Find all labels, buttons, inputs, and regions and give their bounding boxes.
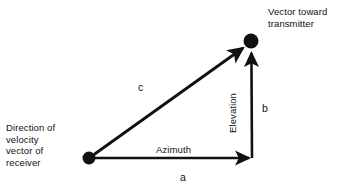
transmitter-label: Vector towardtransmitter <box>268 6 327 29</box>
line-of-sight-arrow <box>94 48 243 155</box>
receiver-label-line-4: receiver <box>6 157 41 168</box>
elevation-label: Elevation <box>227 93 239 133</box>
transmitter-vertex-dot <box>244 34 259 49</box>
receiver-label-line-2: velocity <box>6 134 38 145</box>
receiver-label-line-1: Direction of <box>6 122 55 133</box>
elevation-arrow <box>251 53 252 158</box>
azimuth-label: Azimuth <box>156 144 191 156</box>
vector-geometry-diagram: Vector towardtransmitter Direction ofvel… <box>0 0 348 192</box>
transmitter-label-line-2: transmitter <box>268 18 314 29</box>
transmitter-label-line-1: Vector toward <box>268 6 327 17</box>
receiver-label: Direction ofvelocityvector ofreceiver <box>6 122 55 168</box>
side-c-label: c <box>138 82 143 93</box>
side-a-label: a <box>180 172 186 183</box>
receiver-vertex-dot <box>83 152 96 165</box>
side-b-label: b <box>262 103 268 114</box>
receiver-label-line-3: vector of <box>6 145 43 156</box>
